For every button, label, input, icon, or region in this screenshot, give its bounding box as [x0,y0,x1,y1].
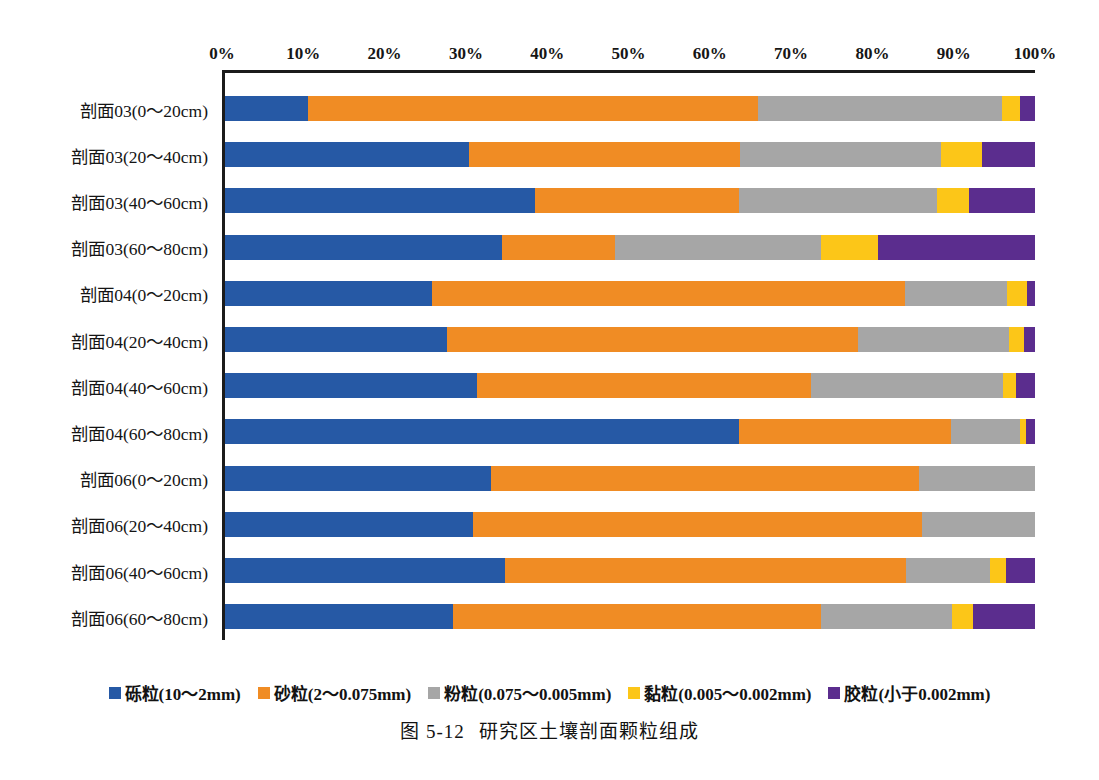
bar-segment[interactable] [491,466,919,491]
y-category-label: 剖面04(40～60cm) [71,373,208,398]
bar-row[interactable] [225,512,1035,537]
bar-segment[interactable] [225,142,469,167]
y-category-label: 剖面04(60～80cm) [71,419,208,444]
bar-segment[interactable] [225,419,739,444]
y-category-label: 剖面03(60～80cm) [71,235,208,260]
x-axis-tick-labels: 0%10%20%30%40%50%60%70%80%90%100% [0,44,1099,66]
bar-segment[interactable] [225,327,447,352]
bar-segment[interactable] [502,235,615,260]
caption-title: 研究区土壤剖面颗粒组成 [479,721,699,742]
bar-segment[interactable] [919,466,1035,491]
legend-item[interactable]: 砾粒(10～2mm) [109,680,241,705]
bar-segment[interactable] [937,188,969,213]
bar-segment[interactable] [477,373,811,398]
legend-label: 胶粒(小于0.002mm) [844,680,990,705]
x-tick-label: 80% [855,44,889,64]
legend-item[interactable]: 粉粒(0.075～0.005mm) [428,680,611,705]
bar-row[interactable] [225,188,1035,213]
bar-segment[interactable] [473,512,923,537]
x-tick-label: 30% [449,44,483,64]
bar-row[interactable] [225,558,1035,583]
bar-segment[interactable] [535,188,739,213]
y-category-label: 剖面06(20～40cm) [71,512,208,537]
bar-row[interactable] [225,373,1035,398]
bar-segment[interactable] [821,604,952,629]
bar-segment[interactable] [982,142,1035,167]
legend-swatch-icon [258,687,270,699]
bar-segment[interactable] [225,96,308,121]
legend-label: 砾粒(10～2mm) [125,680,241,705]
bar-row[interactable] [225,281,1035,306]
legend-label: 粉粒(0.075～0.005mm) [444,680,611,705]
y-category-label: 剖面04(0～20cm) [80,281,208,306]
bar-segment[interactable] [1020,96,1035,121]
bar-segment[interactable] [905,281,1007,306]
bar-segment[interactable] [1027,281,1035,306]
bar-segment[interactable] [225,373,477,398]
bar-segment[interactable] [941,142,982,167]
x-tick-label: 100% [1014,44,1057,64]
bar-segment[interactable] [951,419,1020,444]
bar-segment[interactable] [1002,96,1020,121]
bar-segment[interactable] [225,281,432,306]
bar-row[interactable] [225,96,1035,121]
x-tick-label: 70% [774,44,808,64]
bar-row[interactable] [225,604,1035,629]
bar-segment[interactable] [973,604,1035,629]
bar-segment[interactable] [821,235,878,260]
bar-segment[interactable] [225,235,502,260]
bar-segment[interactable] [1007,281,1026,306]
bar-segment[interactable] [906,558,989,583]
bar-row[interactable] [225,142,1035,167]
bar-row[interactable] [225,327,1035,352]
y-category-label: 剖面03(20～40cm) [71,142,208,167]
bar-segment[interactable] [878,235,1035,260]
x-tick-label: 90% [937,44,971,64]
bar-segment[interactable] [1016,373,1035,398]
legend-item[interactable]: 砂粒(2～0.075mm) [258,680,411,705]
legend-item[interactable]: 胶粒(小于0.002mm) [828,680,990,705]
bar-segment[interactable] [990,558,1006,583]
bar-segment[interactable] [225,188,535,213]
legend-swatch-icon [828,687,840,699]
bar-segment[interactable] [1009,327,1024,352]
legend-item[interactable]: 黏粒(0.005～0.002mm) [628,680,811,705]
chart-legend: 砾粒(10～2mm)砂粒(2～0.075mm)粉粒(0.075～0.005mm)… [0,680,1099,705]
bar-row[interactable] [225,466,1035,491]
figure-caption: 图 5-12研究区土壤剖面颗粒组成 [0,716,1099,743]
bar-segment[interactable] [922,512,1035,537]
bar-segment[interactable] [469,142,740,167]
x-tick-label: 50% [612,44,646,64]
bar-segment[interactable] [308,96,758,121]
bar-segment[interactable] [739,188,937,213]
legend-label: 砂粒(2～0.075mm) [274,680,411,705]
y-category-label: 剖面03(40～60cm) [71,188,208,213]
legend-swatch-icon [109,687,121,699]
bar-segment[interactable] [969,188,1035,213]
bar-segment[interactable] [858,327,1009,352]
bar-segment[interactable] [225,558,505,583]
bar-segment[interactable] [952,604,973,629]
bar-segment[interactable] [505,558,906,583]
bar-segment[interactable] [739,419,951,444]
bar-segment[interactable] [225,466,491,491]
bar-segment[interactable] [225,512,473,537]
bar-segment[interactable] [225,604,453,629]
bar-row[interactable] [225,235,1035,260]
bar-segment[interactable] [1026,419,1035,444]
bar-segment[interactable] [447,327,858,352]
bar-segment[interactable] [740,142,941,167]
y-category-label: 剖面06(60～80cm) [71,604,208,629]
bar-segment[interactable] [453,604,822,629]
y-category-label: 剖面04(20～40cm) [71,327,208,352]
plot-area [222,70,1035,640]
legend-label: 黏粒(0.005～0.002mm) [644,680,811,705]
bar-segment[interactable] [432,281,905,306]
bar-segment[interactable] [615,235,822,260]
bar-segment[interactable] [811,373,1003,398]
bar-segment[interactable] [1006,558,1035,583]
bar-segment[interactable] [1024,327,1035,352]
bar-row[interactable] [225,419,1035,444]
bar-segment[interactable] [1003,373,1017,398]
bar-segment[interactable] [758,96,1002,121]
